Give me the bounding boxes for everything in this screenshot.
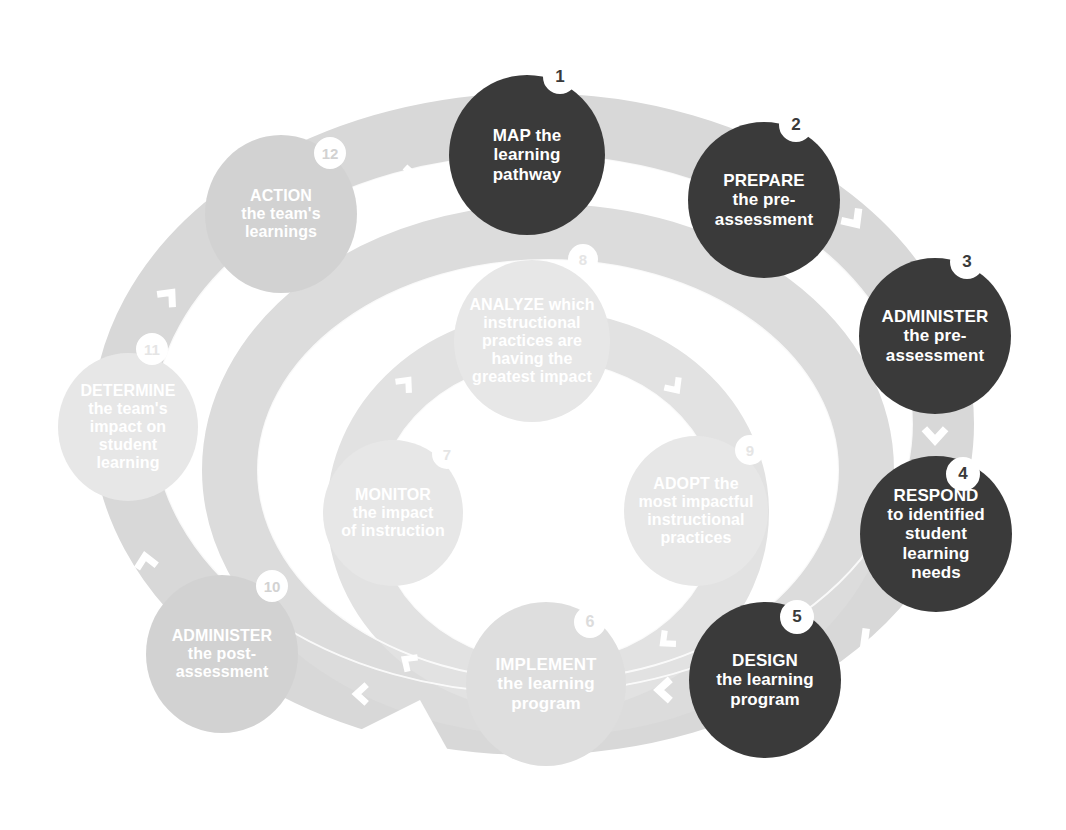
step-label-5: DESIGN the learning program [710,651,820,708]
step-badge-11: 11 [136,333,168,365]
step-label-7: MONITOR the impact of instruction [335,486,451,540]
step-badge-12: 12 [314,137,346,169]
step-label-11: DETERMINE the team's impact on student l… [74,382,181,472]
step-badge-1: 1 [543,60,577,94]
step-badge-3: 3 [950,245,984,279]
step-badge-8: 8 [568,244,598,274]
cycle-diagram: MAP the learning pathway1PREPARE the pre… [0,0,1066,830]
step-label-10: ADMINISTER the post- assessment [166,627,279,681]
step-label-4: RESPOND to identified student learning n… [881,486,991,581]
step-label-6: IMPLEMENT the learning program [489,655,602,712]
step-node-1[interactable]: MAP the learning pathway [449,75,605,235]
step-badge-5: 5 [780,600,814,634]
chevron-1-to-2-icon [617,161,651,195]
step-badge-6: 6 [574,606,606,638]
step-badge-4: 4 [946,457,980,491]
step-node-5[interactable]: DESIGN the learning program [689,602,841,758]
chevron-12-to-1-icon [394,161,426,193]
step-node-11[interactable]: DETERMINE the team's impact on student l… [58,353,198,501]
step-node-4[interactable]: RESPOND to identified student learning n… [860,456,1012,612]
step-node-2[interactable]: PREPARE the pre- assessment [688,122,840,278]
step-label-9: ADOPT the most impactful instructional p… [632,475,759,547]
step-badge-2: 2 [779,108,813,142]
chevron-3-to-4-icon [918,417,952,451]
step-label-12: ACTION the team's learnings [235,187,327,241]
step-label-3: ADMINISTER the pre- assessment [876,307,995,364]
chevron-6-to-7-icon [347,679,377,709]
step-badge-7: 7 [432,439,462,469]
chevron-10-to-11-icon [127,543,164,580]
step-badge-10: 10 [256,570,288,602]
step-node-3[interactable]: ADMINISTER the pre- assessment [859,258,1011,414]
step-badge-9: 9 [735,435,765,465]
chevron-5-to-6-icon [648,673,682,707]
step-label-8: ANALYZE which instructional practices ar… [463,296,600,386]
step-label-2: PREPARE the pre- assessment [709,171,819,228]
step-label-1: MAP the learning pathway [487,126,568,183]
step-node-8[interactable]: ANALYZE which instructional practices ar… [454,260,610,422]
